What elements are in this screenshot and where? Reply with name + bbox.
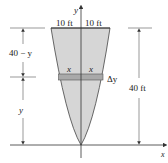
delta-y-label: Δy — [107, 74, 118, 84]
top-right-width-label: 10 ft — [85, 18, 102, 28]
lower-dimension-label: y — [18, 105, 23, 115]
parabolic-tank-diagram: y x 10 ft 10 ft x x Δy 40 − y y 40 ft — [0, 0, 168, 163]
top-left-width-label: 10 ft — [56, 18, 73, 28]
y-axis-label: y — [73, 5, 78, 15]
strip-left-x-label: x — [66, 64, 71, 74]
strip-right-x-label: x — [88, 64, 93, 74]
height-dimension-label: 40 ft — [129, 83, 146, 93]
x-axis-label: x — [160, 150, 165, 159]
upper-dimension-label: 40 − y — [9, 48, 33, 58]
tank-region — [51, 28, 110, 145]
